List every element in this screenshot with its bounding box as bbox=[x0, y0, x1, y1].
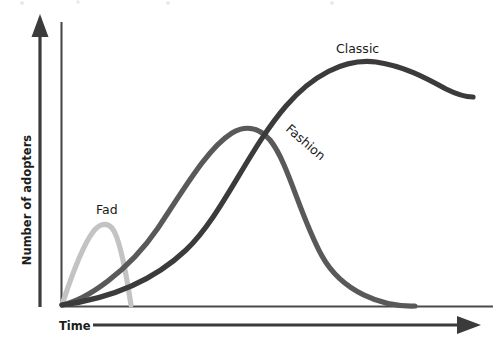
adoption-curves-chart: Number of adopters Time Fad Fashion Clas… bbox=[0, 0, 493, 352]
x-axis-title: Time bbox=[59, 319, 91, 333]
y-axis-title: Number of adopters bbox=[20, 135, 34, 266]
curve-label-fad: Fad bbox=[96, 202, 118, 217]
curve-label-classic: Classic bbox=[336, 41, 379, 56]
